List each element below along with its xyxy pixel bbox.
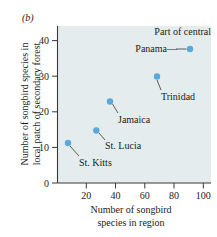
- data-point-st-lucia[interactable]: [93, 127, 99, 133]
- x-tick-label-60: 60: [140, 190, 150, 201]
- data-point-st-kitts[interactable]: [65, 140, 71, 146]
- data-point-jamaica[interactable]: [107, 98, 113, 104]
- annotation-trinidad: Trinidad: [161, 91, 195, 102]
- x-axis-title-line2: species in region: [97, 217, 164, 228]
- x-tick-label-40: 40: [111, 190, 121, 201]
- data-point-panama[interactable]: [187, 46, 193, 52]
- figure-panel-b: (b) 0 10 20 30 40 20 40 60: [0, 0, 217, 237]
- y-axis-title-line1: Number of songbird species in: [19, 43, 30, 166]
- y-axis-title-line2: local patch of secondary forest: [31, 42, 42, 165]
- y-axis-title: Number of songbird species in local patc…: [19, 42, 42, 165]
- annotation-jamaica: Jamaica: [118, 114, 151, 125]
- y-tick-label-0: 0: [44, 178, 49, 189]
- data-point-trinidad[interactable]: [154, 73, 160, 79]
- x-tick-label-80: 80: [169, 190, 179, 201]
- x-tick-label-20: 20: [81, 190, 91, 201]
- x-axis-title-line1: Number of songbird: [90, 204, 171, 215]
- annotation-panama-line2: Panama—: [135, 43, 178, 54]
- x-tick-label-100: 100: [196, 190, 211, 201]
- panel-label: (b): [22, 12, 34, 24]
- annotation-panama-line1: Part of central: [154, 26, 211, 37]
- scatter-chart: (b) 0 10 20 30 40 20 40 60: [0, 0, 217, 237]
- annotation-st-lucia: St. Lucia: [105, 140, 142, 151]
- annotation-st-kitts: St. Kitts: [79, 157, 112, 168]
